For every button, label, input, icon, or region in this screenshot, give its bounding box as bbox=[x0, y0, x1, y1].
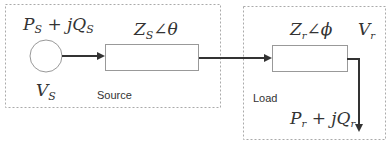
source-power-label: PS + jQS bbox=[22, 14, 94, 36]
load-region-label: Load bbox=[253, 92, 277, 104]
load-voltage-label: Vr bbox=[358, 19, 376, 41]
source-impedance-box bbox=[106, 45, 199, 71]
load-power-label: Pr + jQr bbox=[289, 108, 357, 129]
source-impedance-label: ZS∠θ bbox=[133, 19, 178, 42]
source-voltage-label: VS bbox=[36, 80, 56, 103]
source-region-label: Source bbox=[97, 89, 132, 101]
load-impedance-label: Zr∠ϕ bbox=[289, 19, 333, 41]
source-load-diagram: PS + jQS VS ZS∠θ Source Zr∠ϕ Vr Load Pr … bbox=[0, 0, 391, 144]
load-impedance-box bbox=[273, 46, 348, 72]
voltage-source-circle bbox=[30, 40, 62, 72]
